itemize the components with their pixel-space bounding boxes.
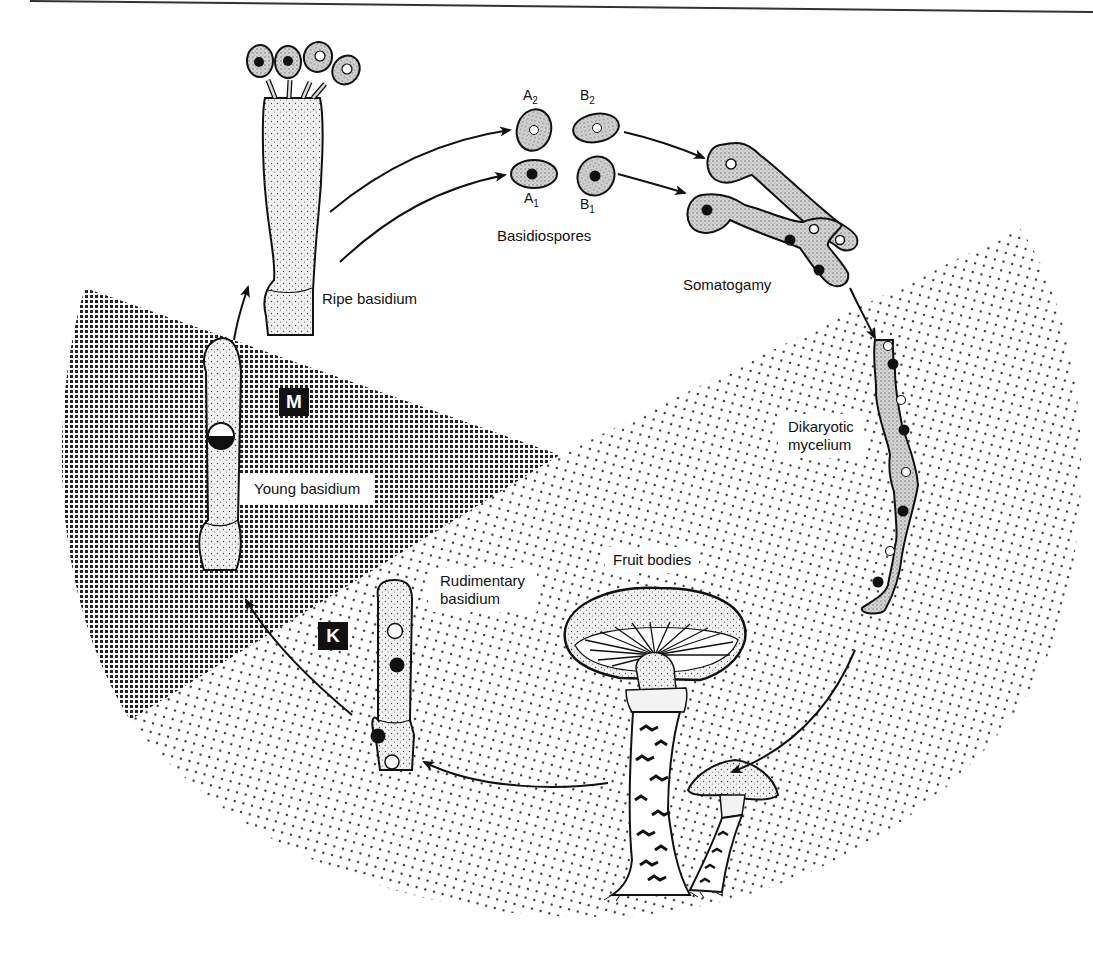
rudimentary-basidium-illustration [371, 580, 415, 770]
diagram-canvas [0, 0, 1093, 967]
rudimentary-basidium-label: Rudimentary basidium [428, 568, 537, 612]
fruit-bodies-label: Fruit bodies [605, 547, 699, 573]
arrow-ripe-to-spore-a1 [340, 175, 505, 262]
spore-label-a2: A2 [523, 87, 538, 106]
young-basidium-label: Young basidium [240, 474, 374, 504]
karyogamy-marker: K [318, 622, 348, 650]
arrow-b1-to-somatogamy [618, 174, 685, 193]
somatogamy-label: Somatogamy [683, 276, 771, 294]
top-rule [30, 1, 1093, 12]
dikaryotic-mycelium-label-line2: mycelium [788, 436, 854, 454]
somatogamy-illustration [687, 143, 857, 286]
spore-label-b2: B2 [580, 87, 595, 106]
meiosis-marker: M [279, 388, 309, 416]
spore-label-b1: B1 [580, 196, 595, 215]
spore-label-a1: A1 [524, 190, 539, 209]
arrow-b2-to-somatogamy [624, 132, 704, 158]
dikaryotic-mycelium-label: Dikaryotic mycelium [778, 414, 864, 458]
rudimentary-basidium-label-line2: basidium [440, 590, 525, 608]
rudimentary-basidium-label-line1: Rudimentary [440, 572, 525, 590]
ripe-basidium-label: Ripe basidium [322, 290, 417, 308]
arrow-young-to-ripe [234, 287, 248, 340]
life-cycle-diagram: A2 B2 A1 B1 Basidiospores Ripe basidium … [0, 0, 1093, 967]
basidiospores-illustration [511, 105, 622, 202]
dikaryotic-mycelium-label-line1: Dikaryotic [788, 418, 854, 436]
basidiospores-label: Basidiospores [497, 227, 591, 245]
arrow-ripe-to-spore-a2 [330, 130, 510, 212]
